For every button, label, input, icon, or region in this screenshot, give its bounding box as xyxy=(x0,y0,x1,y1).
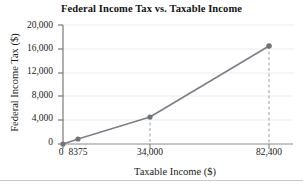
data-point-8375 xyxy=(75,136,80,141)
chart-figure: Federal Income Tax vs. Taxable Income Fe… xyxy=(0,0,303,187)
x-tick-marks xyxy=(63,144,269,149)
data-point-34000 xyxy=(147,114,152,119)
bottom-divider xyxy=(0,180,303,181)
plot-area xyxy=(0,0,303,187)
data-point-markers xyxy=(60,43,271,146)
data-line xyxy=(63,46,269,144)
gridlines xyxy=(63,25,293,120)
data-point-82400 xyxy=(266,43,272,49)
x-axis-title: Taxable Income ($) xyxy=(55,166,295,177)
data-point-0 xyxy=(60,141,65,146)
y-tick-marks xyxy=(58,25,63,144)
